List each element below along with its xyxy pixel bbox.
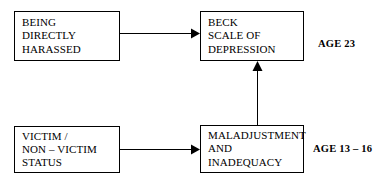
- node-line: STATUS: [22, 156, 119, 169]
- node-line: HARASSED: [22, 43, 119, 56]
- node-line: SCALE OF: [208, 29, 303, 42]
- node-line: DIRECTLY: [22, 29, 119, 42]
- arrow-maladjustment-to-beck: [253, 61, 263, 125]
- node-maladjustment-and-inadequacy: MALADJUSTMENT AND INADEQUACY: [200, 125, 304, 173]
- arrow-victim-to-maladjustment: [120, 145, 200, 155]
- node-victim-non-victim-status: VICTIM / NON – VICTIM STATUS: [14, 126, 120, 173]
- age-label-23: AGE 23: [318, 38, 355, 50]
- node-line: VICTIM /: [22, 130, 119, 143]
- age-label-13-16: AGE 13 – 16: [313, 143, 372, 155]
- node-line: BEING: [22, 16, 119, 29]
- node-line: NON – VICTIM: [22, 143, 119, 156]
- node-beck-scale-of-depression: BECK SCALE OF DEPRESSION: [200, 11, 304, 61]
- diagram-canvas: BEING DIRECTLY HARASSED BECK SCALE OF DE…: [0, 0, 382, 183]
- node-line: INADEQUACY: [208, 156, 303, 169]
- arrow-harassed-to-beck: [120, 29, 200, 39]
- node-being-directly-harassed: BEING DIRECTLY HARASSED: [14, 11, 120, 61]
- node-line: BECK: [208, 16, 303, 29]
- node-line: AND: [208, 142, 303, 155]
- node-line: MALADJUSTMENT: [208, 129, 303, 142]
- node-line: DEPRESSION: [208, 43, 303, 56]
